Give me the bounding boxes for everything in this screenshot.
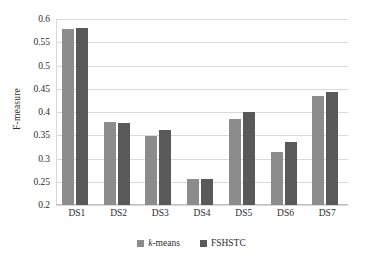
- bar-ds5-fshstc: [243, 112, 255, 205]
- x-tick-label-ds4: DS4: [182, 208, 222, 218]
- bar-group: DS1: [56, 19, 98, 205]
- legend-label: FSHSTC: [211, 238, 246, 248]
- bar-group: DS5: [223, 19, 265, 205]
- y-tick-label: 0.25: [14, 177, 50, 187]
- bar-group: DS6: [265, 19, 307, 205]
- bar-ds4-k-means: [187, 179, 199, 206]
- bar-ds7-fshstc: [326, 92, 338, 205]
- bar-ds2-fshstc: [118, 123, 130, 205]
- bar-ds5-k-means: [229, 119, 241, 206]
- y-tick-label: 0.55: [14, 37, 50, 47]
- x-tick-label-ds6: DS6: [265, 208, 305, 218]
- bar-group: DS4: [181, 19, 223, 205]
- bar-ds3-k-means: [145, 136, 157, 205]
- bar-group: DS7: [306, 19, 348, 205]
- x-tick-label-ds2: DS2: [99, 208, 139, 218]
- chart-legend: k-meansFSHSTC: [0, 238, 383, 248]
- x-tick-label-ds3: DS3: [140, 208, 180, 218]
- bar-ds1-k-means: [62, 29, 74, 205]
- bar-ds4-fshstc: [201, 179, 213, 205]
- y-tick-label: 0.6: [14, 14, 50, 24]
- legend-swatch-icon: [200, 240, 207, 247]
- bar-ds6-k-means: [271, 152, 283, 205]
- legend-item-fshstc[interactable]: FSHSTC: [200, 238, 246, 248]
- y-tick-label: 0.2: [14, 200, 50, 210]
- bar-group: DS2: [98, 19, 140, 205]
- x-tick-label-ds1: DS1: [57, 208, 97, 218]
- y-axis-title: F-measure: [12, 64, 22, 154]
- x-tick-label-ds5: DS5: [224, 208, 264, 218]
- bar-chart: F-measure 0.20.250.30.350.40.450.50.550.…: [0, 0, 383, 261]
- bar-ds7-k-means: [312, 96, 324, 205]
- legend-swatch-icon: [137, 240, 144, 247]
- plot-area: DS1DS2DS3DS4DS5DS6DS7: [56, 19, 348, 205]
- legend-item-k-means[interactable]: k-means: [137, 238, 180, 248]
- bar-group: DS3: [139, 19, 181, 205]
- bar-ds2-k-means: [104, 122, 116, 205]
- x-tick-label-ds7: DS7: [307, 208, 347, 218]
- bar-ds3-fshstc: [159, 130, 171, 205]
- y-tick-label: 0.3: [14, 154, 50, 164]
- bar-ds1-fshstc: [76, 28, 88, 205]
- legend-label: k-means: [148, 238, 180, 248]
- gridline: [56, 205, 348, 206]
- bar-ds6-fshstc: [285, 142, 297, 205]
